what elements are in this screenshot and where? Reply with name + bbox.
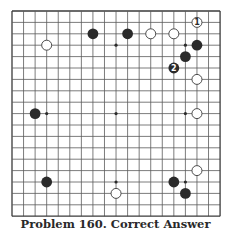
- white-stone: 1: [192, 17, 202, 27]
- black-stone: [168, 177, 179, 188]
- white-stone: [146, 29, 156, 39]
- black-stone: 2: [168, 63, 179, 74]
- move-number-label: 2: [171, 64, 177, 73]
- white-stone: [192, 74, 202, 84]
- white-stone: [42, 40, 52, 50]
- star-point: [184, 180, 187, 183]
- black-stone: [180, 188, 191, 199]
- black-stone: [30, 108, 41, 119]
- black-stone: [192, 40, 203, 51]
- white-stone: [192, 166, 202, 176]
- star-point: [184, 112, 187, 115]
- star-point: [114, 44, 117, 47]
- black-stone: [122, 28, 133, 39]
- black-stone: [88, 28, 99, 39]
- white-stone: [192, 109, 202, 119]
- star-point: [114, 180, 117, 183]
- white-stone: [111, 188, 121, 198]
- black-stone: [180, 51, 191, 62]
- star-point: [114, 112, 117, 115]
- black-stone: [41, 177, 52, 188]
- move-number-label: 1: [194, 18, 200, 27]
- go-board: 12: [0, 0, 231, 232]
- star-point: [45, 112, 48, 115]
- white-stone: [169, 29, 179, 39]
- star-point: [184, 44, 187, 47]
- diagram-caption: Problem 160. Correct Answer: [0, 217, 231, 231]
